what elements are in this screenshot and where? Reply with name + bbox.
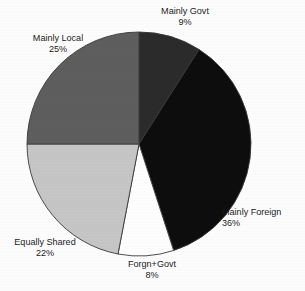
pie-label-equally-shared: Equally Shared 22% — [3, 237, 87, 260]
pie-label-equally-shared-value: 22% — [3, 248, 87, 259]
pie-chart-figure: Mainly Govt 9% Mainly Local 25% Mainly F… — [0, 0, 305, 291]
pie-label-mainly-local-name: Mainly Local — [18, 33, 98, 44]
pie-label-equally-shared-name: Equally Shared — [3, 237, 87, 248]
pie-label-mainly-govt: Mainly Govt 9% — [148, 6, 222, 29]
pie-label-mainly-govt-value: 9% — [148, 17, 222, 28]
pie-label-mainly-local: Mainly Local 25% — [18, 33, 98, 56]
pie-label-mainly-foreign-name: Mainly Foreign — [222, 207, 302, 218]
pie-label-mainly-local-value: 25% — [18, 44, 98, 55]
pie-label-mainly-foreign-value: 36% — [222, 218, 302, 229]
pie-label-forgn-plus-govt-name: Forgn+Govt — [112, 259, 192, 270]
pie-slices — [27, 32, 251, 256]
pie-label-mainly-govt-name: Mainly Govt — [148, 6, 222, 17]
pie-label-forgn-plus-govt-value: 8% — [112, 270, 192, 281]
pie-label-forgn-plus-govt: Forgn+Govt 8% — [112, 259, 192, 282]
pie-label-mainly-foreign: Mainly Foreign 36% — [222, 207, 302, 230]
